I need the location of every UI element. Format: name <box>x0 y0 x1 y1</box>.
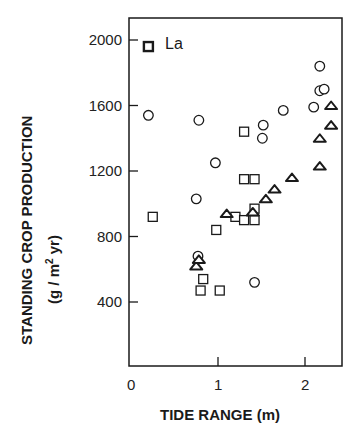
y-axis-units: (g / m2 yr) <box>44 235 62 304</box>
square-marker <box>240 175 249 184</box>
circle-marker <box>278 106 288 116</box>
triangle-marker <box>325 102 337 110</box>
circle-marker <box>315 61 325 71</box>
triangle-marker <box>314 162 326 170</box>
square-marker <box>199 275 208 284</box>
y-tick-label: 2000 <box>89 31 122 48</box>
circle-marker <box>309 102 319 112</box>
y-tick-label: 800 <box>97 228 122 245</box>
y-axis-title: STANDING CROP PRODUCTION <box>18 116 35 345</box>
triangle-marker <box>260 195 272 203</box>
triangle-marker <box>221 210 233 218</box>
circle-marker <box>191 194 201 204</box>
legend-marker-la <box>144 42 153 51</box>
square-marker <box>212 225 221 234</box>
triangle-marker <box>286 174 298 182</box>
triangle-marker <box>314 134 326 142</box>
square-marker <box>240 127 249 136</box>
triangle-marker <box>269 185 281 193</box>
square-marker <box>148 212 157 221</box>
y-tick-label: 400 <box>97 293 122 310</box>
square-marker <box>215 286 224 295</box>
circle-marker <box>258 120 268 130</box>
y-units-prefix: (g / m <box>45 264 62 304</box>
square-marker <box>250 216 259 225</box>
legend-label-la: La <box>165 35 183 53</box>
triangle-marker <box>325 121 337 128</box>
y-tick-label: 1200 <box>89 162 122 179</box>
x-tick-label: 0 <box>127 376 135 393</box>
scatter-plot <box>0 0 356 438</box>
square-marker <box>250 175 259 184</box>
circle-marker <box>250 278 260 288</box>
plot-frame <box>129 18 342 366</box>
circle-marker <box>194 115 204 125</box>
y-units-superscript: 2 <box>44 258 55 264</box>
square-marker <box>196 286 205 295</box>
plot-border <box>129 18 342 366</box>
circle-marker <box>258 133 268 143</box>
square-marker <box>240 216 249 225</box>
data-points <box>144 42 338 295</box>
circle-marker <box>319 84 329 94</box>
x-tick-label: 1 <box>214 376 222 393</box>
circle-marker <box>211 158 221 168</box>
x-tick-label: 2 <box>301 376 309 393</box>
x-axis-title: TIDE RANGE (m) <box>160 406 280 423</box>
y-tick-label: 1600 <box>89 97 122 114</box>
circle-marker <box>144 111 154 121</box>
y-units-suffix: yr) <box>45 235 62 258</box>
